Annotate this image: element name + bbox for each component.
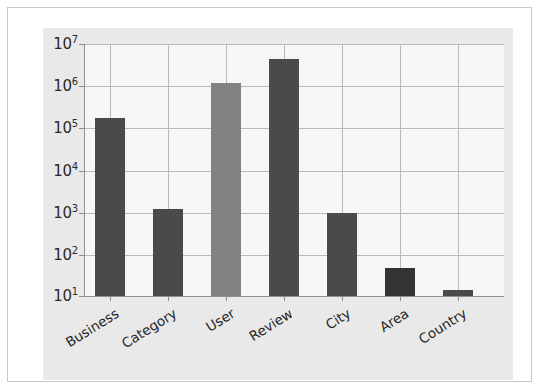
y-tick-label-1e5: 105 bbox=[53, 119, 78, 137]
bar-business[interactable] bbox=[95, 118, 125, 297]
y-tick-mark-1e5 bbox=[79, 128, 84, 129]
y-tick-label-1e7: 107 bbox=[53, 35, 78, 53]
x-tick-mark-category bbox=[168, 297, 169, 301]
x-tick-mark-area bbox=[400, 297, 401, 301]
y-tick-label-1e1: 101 bbox=[53, 287, 78, 305]
y-tick-label-1e6: 106 bbox=[53, 77, 78, 95]
y-tick-label-1e3: 103 bbox=[53, 204, 78, 222]
y-tick-mark-1e6 bbox=[79, 86, 84, 87]
gridline-vertical-area bbox=[400, 44, 401, 297]
y-tick-mark-1e3 bbox=[79, 213, 84, 214]
y-tick-mark-1e7 bbox=[79, 44, 84, 45]
bar-area[interactable] bbox=[385, 268, 415, 298]
x-tick-mark-country bbox=[458, 297, 459, 301]
y-tick-label-1e2: 102 bbox=[53, 246, 78, 264]
y-tick-mark-1e4 bbox=[79, 171, 84, 172]
y-axis-line bbox=[84, 44, 85, 297]
plot-area bbox=[84, 44, 504, 297]
gridline-vertical-country bbox=[458, 44, 459, 297]
y-tick-mark-1e1 bbox=[79, 296, 84, 297]
bar-category[interactable] bbox=[153, 209, 183, 297]
y-tick-label-1e4: 104 bbox=[53, 162, 78, 180]
x-tick-mark-review bbox=[284, 297, 285, 301]
bar-city[interactable] bbox=[327, 213, 357, 297]
x-tick-mark-business bbox=[110, 297, 111, 301]
x-tick-mark-user bbox=[226, 297, 227, 301]
x-tick-mark-city bbox=[342, 297, 343, 301]
bar-review[interactable] bbox=[269, 59, 299, 297]
gridline-horizontal-1e7 bbox=[84, 44, 504, 45]
y-tick-mark-1e2 bbox=[79, 255, 84, 256]
x-axis-line bbox=[84, 296, 504, 297]
bar-user[interactable] bbox=[211, 83, 241, 297]
